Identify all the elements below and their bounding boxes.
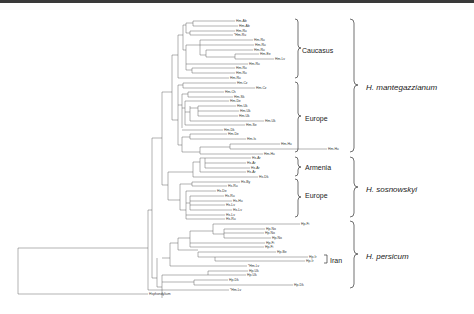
leaf-label: Hs-Ar <box>252 156 262 160</box>
leaf-label: Hm-Ru <box>236 71 247 75</box>
region-label-iran: Iran <box>330 257 342 264</box>
region-label-europe-mantegazzianum: Europe <box>305 115 328 123</box>
leaf-label: Hm-Cz <box>256 86 267 90</box>
leaf-label: Hm-Uk <box>265 119 276 123</box>
leaf-label: Hs-By <box>241 180 251 184</box>
region-label-caucasus: Caucasus <box>302 47 334 54</box>
leaf-label: Hp-Fi <box>301 222 310 226</box>
species-label-h-mantegazzianum: H. mantegazzianum <box>366 83 437 92</box>
phylogenetic-tree: Hm-AbHm-AbHm-Ru*Hm-RuHm-RuHm-RuHm-RuHm-E… <box>0 0 474 314</box>
leaf-label: Hm-Hu <box>328 147 339 151</box>
leaf-label: Hm-Ru <box>255 43 266 47</box>
leaf-label: Hs-Ru <box>225 194 235 198</box>
leaf-label: Hm-Hu <box>264 152 275 156</box>
leaf-label: Hp-Fi <box>265 245 274 249</box>
leaf-label: Hm-De <box>228 132 239 136</box>
region-braces <box>295 19 327 263</box>
leaf-label: Hp-Ir <box>306 259 314 263</box>
species-label-h-sosnowskyi: H. sosnowskyi <box>366 185 417 194</box>
leaf-label: Hs-Ru <box>228 184 238 188</box>
leaf-label: *Hm-Lv <box>248 264 260 268</box>
brace-h-mantegazzianum <box>350 19 358 152</box>
leaf-label: Hm-De <box>230 99 241 103</box>
leaf-label: Hm-Cz <box>237 81 248 85</box>
leaf-label: Hm-Ru <box>236 66 247 70</box>
leaf-label: Hs-Ru <box>226 217 236 221</box>
leaf-label: Hp-No <box>265 231 275 235</box>
leaf-label: Hs-Dk <box>259 175 269 179</box>
brace-europe-sosnowskyi <box>295 179 301 217</box>
brace-h-persicum <box>350 221 358 288</box>
leaf-label: Hm-Ab <box>236 19 247 23</box>
leaf-label: Hm-Ru <box>230 76 241 80</box>
leaf-label: *Hm-Ru <box>234 33 246 37</box>
leaf-label: Hm-Uk <box>237 104 248 108</box>
leaf-label: Hs-De <box>217 189 227 193</box>
leaf-label: Hm-Ru <box>249 62 260 66</box>
region-label-armenia: Armenia <box>305 164 331 171</box>
leaf-label: Hm-Is <box>247 137 256 141</box>
species-label-h-persicum: H. persicum <box>366 252 409 261</box>
species-braces <box>350 19 358 288</box>
brace-europe-mantegazzianum <box>295 82 301 152</box>
leaf-label: Hm-Hu <box>281 142 292 146</box>
leaf-label: Hp-Be <box>277 250 287 254</box>
leaf-label: Hs-Ar <box>247 161 257 165</box>
leaf-label: Hm-Se <box>246 123 257 127</box>
leaf-label: Hm-Ru <box>254 38 265 42</box>
leaf-label: Hm-Lv <box>275 57 285 61</box>
region-label-europe-sosnowskyi: Europe <box>305 192 328 200</box>
brace-h-sosnowskyi <box>350 157 358 217</box>
leaf-label: Hs-Lv <box>226 203 235 207</box>
leaf-label: Hp-Uk <box>247 273 257 277</box>
brace-caucasus <box>295 19 301 78</box>
leaf-label: Hp-Dk <box>294 283 304 287</box>
leaf-label: Hm-Ee <box>260 52 271 56</box>
leaf-label: *Hm-Lv <box>230 288 242 292</box>
leaf-label: Hm-Ch <box>225 90 236 94</box>
bracket-iran <box>324 255 327 263</box>
tree-branches <box>18 21 327 298</box>
leaf-label: Hs-Ar <box>247 170 257 174</box>
leaf-label: Hs-Lv <box>233 208 242 212</box>
leaf-labels: Hm-AbHm-AbHm-Ru*Hm-RuHm-RuHm-RuHm-RuHm-E… <box>149 19 339 296</box>
leaf-label: Hm-Uk <box>240 109 251 113</box>
leaf-label: Hp-Dk <box>229 278 239 282</box>
leaf-label: Hp-No <box>272 236 282 240</box>
brace-armenia <box>295 157 301 176</box>
leaf-label: Hm-Ab <box>239 24 250 28</box>
leaf-label: Hm-Uk <box>239 114 250 118</box>
leaf-label: Hsphondylium <box>149 292 171 296</box>
